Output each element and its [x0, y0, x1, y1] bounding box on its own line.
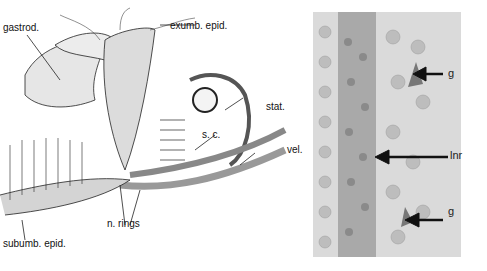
label-subumb-epid: subumb. epid.	[3, 238, 66, 249]
label-s-c: s. c.	[202, 129, 220, 140]
line-drawing-panel: gastrod. exumb. epid. stat. s. c. vel. n…	[0, 0, 300, 271]
micrograph-panel	[313, 12, 461, 257]
label-g-bottom: g	[448, 205, 454, 217]
label-gastrod: gastrod.	[3, 22, 39, 33]
bell-margin-drawing	[0, 0, 300, 271]
label-g-top: g	[448, 67, 454, 79]
label-lnr: lnr	[450, 149, 462, 161]
nerve-ring-micrograph	[313, 12, 461, 257]
label-n-rings: n. rings	[107, 218, 140, 229]
label-exumb-epid: exumb. epid.	[170, 20, 227, 31]
label-stat: stat.	[266, 101, 285, 112]
label-vel: vel.	[287, 144, 303, 155]
